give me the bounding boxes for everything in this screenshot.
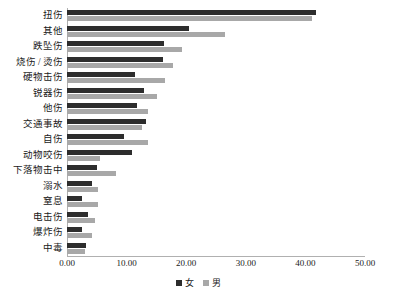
bar-row <box>67 86 365 102</box>
bar-female <box>67 227 82 232</box>
x-axis-tick-label: 50.00 <box>355 258 375 268</box>
bar-row <box>67 70 365 86</box>
bar-female <box>67 181 92 186</box>
legend-label: 男 <box>212 276 221 289</box>
female-swatch <box>176 280 182 286</box>
x-axis-line <box>67 256 365 257</box>
bar-female <box>67 165 97 170</box>
bar-row <box>67 163 365 179</box>
bar-row <box>67 132 365 148</box>
bar-row <box>67 24 365 40</box>
bar-row <box>67 148 365 164</box>
category-label: 烧伤 / 烫伤 <box>0 55 63 71</box>
bar-male <box>67 109 148 114</box>
bar-rows <box>67 8 365 256</box>
category-label: 电击伤 <box>0 210 63 226</box>
x-axis-tick-label: 0.00 <box>59 258 75 268</box>
category-label: 跌坠伤 <box>0 39 63 55</box>
category-label: 其他 <box>0 24 63 40</box>
x-axis-tick-label: 10.00 <box>116 258 136 268</box>
bar-male <box>67 233 92 238</box>
bar-row <box>67 179 365 195</box>
category-axis-labels: 扭伤其他跌坠伤烧伤 / 烫伤硬物击伤锐器伤他伤交通事故自伤动物咬伤下落物击中溺水… <box>0 8 63 256</box>
category-label: 锐器伤 <box>0 86 63 102</box>
bar-row <box>67 39 365 55</box>
legend-item[interactable]: 男 <box>203 276 221 289</box>
bar-male <box>67 249 85 254</box>
bar-row <box>67 8 365 24</box>
category-label: 中毒 <box>0 241 63 257</box>
bar-row <box>67 241 365 257</box>
bar-female <box>67 119 146 124</box>
category-label: 交通事故 <box>0 117 63 133</box>
bar-row <box>67 55 365 71</box>
bar-female <box>67 150 132 155</box>
x-axis-tick-label: 20.00 <box>176 258 196 268</box>
bar-female <box>67 196 82 201</box>
bar-male <box>67 218 95 223</box>
bar-row <box>67 210 365 226</box>
bar-male <box>67 187 98 192</box>
bar-row <box>67 194 365 210</box>
bar-male <box>67 47 182 52</box>
category-label: 溺水 <box>0 179 63 195</box>
bar-male <box>67 32 225 37</box>
bar-chart: 扭伤其他跌坠伤烧伤 / 烫伤硬物击伤锐器伤他伤交通事故自伤动物咬伤下落物击中溺水… <box>0 0 396 297</box>
bar-male <box>67 125 142 130</box>
x-axis-tick-label: 30.00 <box>236 258 256 268</box>
category-label: 扭伤 <box>0 8 63 24</box>
x-axis-ticks: 0.0010.0020.0030.0040.0050.00 <box>67 258 365 272</box>
bar-female <box>67 243 86 248</box>
x-axis-tick-label: 40.00 <box>295 258 315 268</box>
bar-male <box>67 171 116 176</box>
category-label: 他伤 <box>0 101 63 117</box>
bar-female <box>67 134 124 139</box>
legend-item[interactable]: 女 <box>176 276 194 289</box>
plot-area <box>67 8 365 256</box>
bar-female <box>67 103 137 108</box>
legend-label: 女 <box>185 276 194 289</box>
category-label: 自伤 <box>0 132 63 148</box>
category-label: 动物咬伤 <box>0 148 63 164</box>
bar-female <box>67 212 88 217</box>
bar-male <box>67 16 312 21</box>
bar-row <box>67 117 365 133</box>
bar-row <box>67 101 365 117</box>
bar-male <box>67 78 165 83</box>
category-label: 窒息 <box>0 194 63 210</box>
category-label: 下落物击中 <box>0 163 63 179</box>
bar-male <box>67 63 173 68</box>
male-swatch <box>203 280 209 286</box>
bar-male <box>67 94 157 99</box>
bar-female <box>67 88 144 93</box>
bar-female <box>67 57 163 62</box>
bar-male <box>67 156 100 161</box>
category-label: 爆炸伤 <box>0 225 63 241</box>
bar-female <box>67 10 316 15</box>
category-label: 硬物击伤 <box>0 70 63 86</box>
bar-female <box>67 26 189 31</box>
bar-male <box>67 202 98 207</box>
bar-row <box>67 225 365 241</box>
bar-female <box>67 72 135 77</box>
bar-male <box>67 140 148 145</box>
chart-legend: 女男 <box>0 276 396 289</box>
bar-female <box>67 41 164 46</box>
